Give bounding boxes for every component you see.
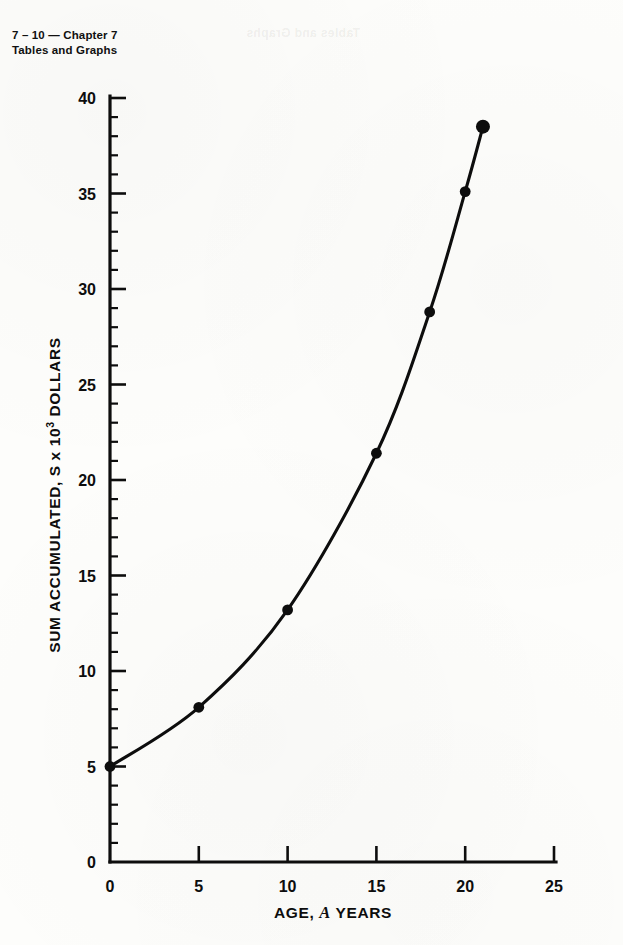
- y-axis-tick-label: 5: [87, 759, 96, 776]
- y-axis-tick-label: 35: [78, 186, 96, 203]
- page-header-chapter-line: 7 – 10 — Chapter 7: [12, 28, 118, 43]
- data-point-markers: [105, 120, 490, 772]
- y-axis-title: SUM ACCUMULATED, S x 103 DOLLARS: [44, 337, 63, 652]
- page-header: 7 – 10 — Chapter 7 Tables and Graphs: [12, 28, 118, 57]
- x-axis-tick-label: 15: [368, 878, 386, 895]
- chart-canvas: 0510152025303540 0510152025 SUM ACCUMULA…: [0, 0, 623, 945]
- x-axis-tick-label: 25: [545, 878, 563, 895]
- y-axis-tick-label: 40: [78, 90, 96, 107]
- x-axis-tick-label: 20: [456, 878, 474, 895]
- y-axis-tick-label: 10: [78, 663, 96, 680]
- data-point-marker: [105, 761, 116, 772]
- x-axis-major-ticks: [199, 846, 554, 862]
- x-axis-title-text: AGE, A YEARS: [274, 903, 392, 922]
- y-axis-tick-label: 25: [78, 377, 96, 394]
- y-axis-tick-label: 20: [78, 472, 96, 489]
- data-point-marker: [193, 702, 204, 713]
- data-point-marker: [476, 120, 490, 134]
- data-series-curve: [110, 127, 483, 767]
- page-header-section-line: Tables and Graphs: [12, 43, 118, 58]
- x-axis-tick-label: 0: [106, 878, 115, 895]
- y-axis-tick-labels: 0510152025303540: [78, 90, 96, 871]
- chart-figure: 0510152025303540 0510152025 SUM ACCUMULA…: [0, 0, 623, 945]
- data-point-marker: [371, 448, 382, 459]
- data-point-marker: [424, 307, 435, 318]
- x-axis-tick-label: 10: [279, 878, 297, 895]
- x-axis-tick-label: 5: [194, 878, 203, 895]
- data-point-marker: [282, 604, 293, 615]
- data-point-marker: [460, 186, 471, 197]
- y-axis-tick-label: 15: [78, 568, 96, 585]
- y-axis-tick-label: 30: [78, 281, 96, 298]
- y-axis-tick-label: 0: [87, 854, 96, 871]
- y-axis-major-ticks: [110, 98, 126, 767]
- y-axis-title-text: SUM ACCUMULATED, S x 103 DOLLARS: [44, 337, 63, 652]
- x-axis-tick-labels: 0510152025: [106, 878, 563, 895]
